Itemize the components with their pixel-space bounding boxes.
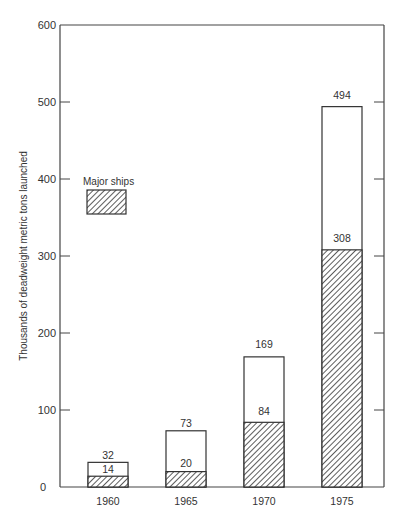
y-tick-600: 600 [38,19,56,31]
bar-major-1965 [166,472,206,487]
bar-major-1975 [322,250,362,487]
y-tick-300: 300 [38,250,56,262]
total-label-1965: 73 [180,417,192,429]
major-label-1965: 20 [180,457,192,469]
total-label-1970: 169 [255,338,273,350]
bars [88,107,362,487]
total-label-1975: 494 [333,89,351,101]
x-label-1965: 1965 [174,495,198,507]
bar-major-1970 [244,422,284,487]
y-tick-200: 200 [38,327,56,339]
y-axis-title: Thousands of deadweight metric tons laun… [18,151,29,361]
x-label-1960: 1960 [96,495,120,507]
total-label-1960: 32 [102,449,114,461]
y-tick-400: 400 [38,173,56,185]
y-axis-labels: 0 100 200 300 400 500 600 [38,19,56,493]
y-tick-0: 0 [40,481,46,493]
legend-label: Major ships [83,176,134,187]
legend: Major ships [83,176,134,214]
major-label-1975: 308 [333,232,351,244]
bar-major-1960 [88,476,128,487]
value-labels: 32 14 73 20 169 84 494 308 [102,89,351,475]
major-label-1970: 84 [258,405,270,417]
major-label-1960: 14 [102,463,114,475]
x-axis-labels: 1960 1965 1970 1975 [96,495,354,507]
legend-swatch-hatched [87,190,126,214]
x-label-1970: 1970 [252,495,276,507]
y-tick-500: 500 [38,96,56,108]
y-tick-100: 100 [38,404,56,416]
x-label-1975: 1975 [330,495,354,507]
chart: 0 100 200 300 400 500 600 Thousands of d… [0,0,405,515]
